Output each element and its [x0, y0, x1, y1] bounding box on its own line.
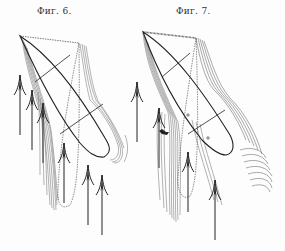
- figure-6-right-streamlines: [80, 44, 128, 163]
- up-arrow-icon: [131, 82, 143, 142]
- figure-6-body: [20, 36, 109, 207]
- figure-7-right-streamlines: [196, 38, 272, 192]
- figure-6: [14, 36, 128, 235]
- figures-drawing: [0, 0, 285, 251]
- up-arrow-icon: [14, 75, 26, 135]
- up-arrow-icon: [96, 175, 108, 235]
- up-arrow-icon: [58, 143, 70, 203]
- figure-7-ink-mark: [159, 129, 169, 135]
- illustration-page: Фиг. 6. Фиг. 7.: [0, 0, 285, 251]
- up-arrow-icon: [82, 165, 94, 225]
- up-arrow-icon: [153, 108, 165, 168]
- figure-7: [131, 32, 272, 240]
- up-arrow-icon: [182, 152, 194, 212]
